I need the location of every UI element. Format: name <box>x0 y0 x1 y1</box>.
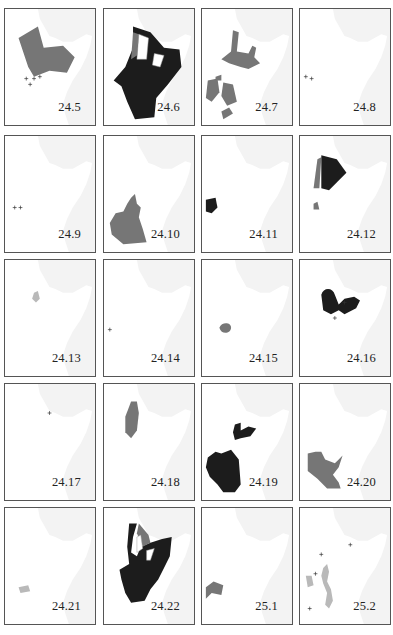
range-shape <box>308 452 343 489</box>
record-marker-icon <box>28 82 32 86</box>
range-shape <box>206 198 218 213</box>
east-africa-map <box>5 508 95 624</box>
record-marker-icon <box>348 543 352 547</box>
range-shape <box>110 194 147 244</box>
map-panel-24-5: 24.5 <box>4 8 96 126</box>
range-shape <box>32 291 40 303</box>
panel-label: 24.21 <box>52 599 81 614</box>
east-africa-map <box>202 260 292 376</box>
record-marker-icon <box>19 206 23 210</box>
east-africa-map <box>5 9 95 125</box>
east-africa-map <box>104 136 194 252</box>
east-africa-map <box>300 136 390 252</box>
record-marker-icon <box>314 572 318 576</box>
panel-label: 24.12 <box>347 227 376 242</box>
map-panel-24-17: 24.17 <box>4 383 96 501</box>
east-africa-map <box>104 508 194 624</box>
map-panel-24-20: 24.20 <box>299 383 391 501</box>
record-marker-icon <box>333 316 337 320</box>
east-africa-map <box>300 508 390 624</box>
record-marker-icon <box>108 328 112 332</box>
panel-label: 24.17 <box>52 475 81 490</box>
record-marker-icon <box>38 75 42 79</box>
east-africa-map <box>202 9 292 125</box>
panel-label: 25.1 <box>255 599 278 614</box>
east-africa-map <box>5 384 95 500</box>
east-africa-map <box>300 9 390 125</box>
panel-label: 24.5 <box>58 100 81 115</box>
panel-label: 25.2 <box>353 599 376 614</box>
range-shape <box>206 79 220 102</box>
record-marker-icon <box>304 75 308 79</box>
range-shape <box>321 564 333 608</box>
range-shape <box>314 202 320 210</box>
map-panel-24-12: 24.12 <box>299 135 391 253</box>
east-africa-map <box>5 136 95 252</box>
panel-label: 24.18 <box>151 475 180 490</box>
panel-label: 24.6 <box>157 100 180 115</box>
range-shape <box>233 423 256 440</box>
panel-label: 24.8 <box>353 100 376 115</box>
record-marker-icon <box>48 411 52 415</box>
range-shape <box>219 323 231 332</box>
map-panel-24-19: 24.19 <box>201 383 293 501</box>
east-africa-map <box>104 260 194 376</box>
east-africa-map <box>5 260 95 376</box>
panel-label: 24.20 <box>347 475 376 490</box>
map-panel-24-14: 24.14 <box>103 259 195 377</box>
panel-label: 24.13 <box>52 351 81 366</box>
range-shape <box>125 401 139 438</box>
range-shape <box>206 581 223 598</box>
range-shape <box>321 155 346 190</box>
map-panel-24-11: 24.11 <box>201 135 293 253</box>
map-panel-24-8: 24.8 <box>299 8 391 126</box>
range-shape <box>221 82 236 105</box>
east-africa-map <box>202 136 292 252</box>
map-panel-24-22: 24.22 <box>103 507 195 625</box>
map-panel-24-9: 24.9 <box>4 135 96 253</box>
panel-label: 24.11 <box>249 227 278 242</box>
range-shape <box>221 108 233 120</box>
east-africa-map <box>202 384 292 500</box>
record-marker-icon <box>310 77 314 81</box>
map-panel-24-18: 24.18 <box>103 383 195 501</box>
panel-label: 24.19 <box>249 475 278 490</box>
panel-label: 24.9 <box>58 227 81 242</box>
east-africa-map <box>300 384 390 500</box>
east-africa-map <box>300 260 390 376</box>
record-marker-icon <box>13 206 17 210</box>
map-panel-25-2: 25.2 <box>299 507 391 625</box>
east-africa-map <box>202 508 292 624</box>
east-africa-map <box>104 9 194 125</box>
range-shape <box>321 289 360 314</box>
range-shape <box>216 75 222 81</box>
map-panel-24-21: 24.21 <box>4 507 96 625</box>
map-panel-24-7: 24.7 <box>201 8 293 126</box>
east-africa-map <box>104 384 194 500</box>
map-panel-24-6: 24.6 <box>103 8 195 126</box>
record-marker-icon <box>24 77 28 81</box>
range-shape <box>306 576 314 588</box>
clipped-caption <box>40 0 340 3</box>
map-panel-24-16: 24.16 <box>299 259 391 377</box>
range-shape <box>314 157 322 188</box>
record-marker-icon <box>32 77 36 81</box>
map-panel-24-10: 24.10 <box>103 135 195 253</box>
panel-label: 24.7 <box>255 100 278 115</box>
map-panel-24-15: 24.15 <box>201 259 293 377</box>
panel-label: 24.10 <box>151 227 180 242</box>
panel-label: 24.22 <box>151 599 180 614</box>
range-shape <box>19 585 31 593</box>
record-marker-icon <box>308 607 312 611</box>
map-panel-24-13: 24.13 <box>4 259 96 377</box>
panel-label: 24.16 <box>347 351 376 366</box>
panel-label: 24.15 <box>249 351 278 366</box>
panel-label: 24.14 <box>151 351 180 366</box>
record-marker-icon <box>319 552 323 556</box>
range-shape <box>206 450 241 493</box>
map-panel-25-1: 25.1 <box>201 507 293 625</box>
